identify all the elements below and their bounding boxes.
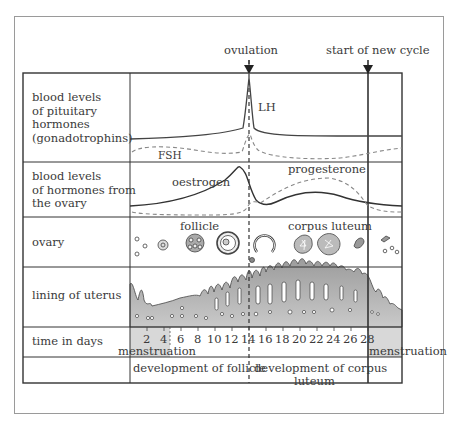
follicle-label: follicle: [180, 220, 219, 233]
row-label-ovary: ovary: [32, 236, 64, 250]
day-ticks: [147, 327, 368, 331]
phase-corpus-luteum-2: luteum: [294, 375, 335, 388]
menstruation-label-left: menstruation: [118, 345, 196, 358]
fsh-label: FSH: [158, 149, 182, 162]
uterus-lining: [130, 259, 402, 327]
ovary-structures: [135, 232, 399, 263]
corpus-luteum-label: corpus luteum: [288, 220, 372, 233]
start-new-cycle-label: start of new cycle: [326, 44, 430, 57]
phase-follicle: development of follicle: [133, 362, 266, 375]
lh-label: LH: [258, 101, 276, 114]
ovulation-label: ovulation: [224, 44, 278, 57]
row-label-uterus: lining of uterus: [32, 289, 121, 303]
row-label-time: time in days: [32, 335, 103, 349]
oestrogen-label: oestrogen: [172, 176, 230, 189]
row-label-ovary-hormones: blood levelsof hormones fromthe ovary: [32, 170, 136, 211]
row-label-pituitary: blood levelsof pituitaryhormones(gonadot…: [32, 91, 133, 145]
progesterone-label: progesterone: [288, 163, 366, 176]
menstruation-label-right: menstruation: [369, 345, 447, 358]
